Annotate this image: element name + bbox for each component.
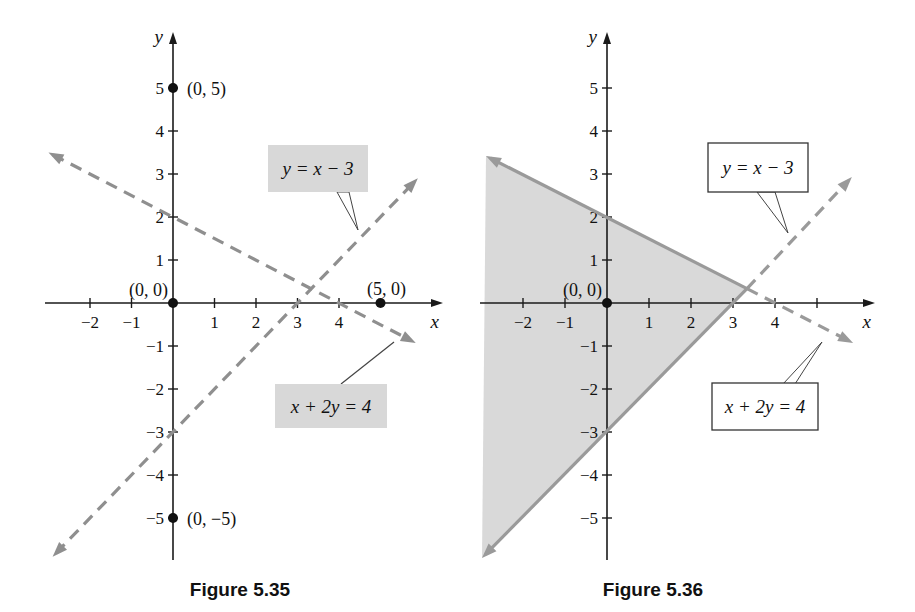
x-tick-label: 4: [771, 313, 780, 332]
y-tick-label: −4: [580, 466, 599, 485]
point-dot: [376, 298, 386, 308]
y-tick-label: 1: [156, 251, 165, 270]
line-y-equals-x-minus-3: [56, 182, 414, 553]
x-tick-label: 4: [335, 313, 344, 332]
x-tick-label: −1: [122, 313, 140, 332]
callout-pointer: [783, 342, 822, 384]
figure-5-36: xy−2−1123454321−1−2−3−4−5(0, 0)y = x − 3…: [480, 26, 875, 560]
y-tick-label: −3: [580, 423, 598, 442]
y-tick-label: 4: [156, 122, 165, 141]
y-tick-label: −1: [580, 337, 598, 356]
x-tick-label: 2: [252, 313, 261, 332]
equation-label: x + 2y = 4: [724, 396, 806, 417]
equation-label: y = x − 3: [280, 158, 353, 179]
line-x-plus-2y-equals-4: [747, 289, 849, 341]
point-label: (0, 0): [129, 280, 168, 301]
y-tick-label: −1: [146, 337, 164, 356]
y-tick-label: −2: [146, 380, 164, 399]
y-tick-label: 1: [590, 251, 599, 270]
y-tick-label: −5: [580, 509, 598, 528]
y-tick-label: −2: [580, 380, 598, 399]
point-dot: [168, 83, 178, 93]
x-tick-label: −2: [514, 313, 532, 332]
figure-5-35: xy−2−1123454321−1−2−3−4−5(0, 5)(0, 0)(5,…: [45, 26, 443, 560]
y-tick-label: 5: [156, 79, 165, 98]
x-axis-label: x: [862, 311, 872, 332]
y-axis-arrow-icon: [603, 32, 611, 44]
page: xy−2−1123454321−1−2−3−4−5(0, 5)(0, 0)(5,…: [0, 0, 915, 612]
y-tick-label: −4: [146, 466, 165, 485]
point-dot: [168, 513, 178, 523]
y-tick-label: −5: [146, 509, 164, 528]
y-tick-label: 3: [156, 165, 165, 184]
callout-pointer: [341, 342, 394, 384]
line-x-plus-2y-equals-4-arrow-icon: [400, 331, 416, 343]
line-x-plus-2y-equals-4-arrow-icon: [49, 153, 65, 165]
point-label: (0, 5): [187, 79, 226, 100]
x-tick-label: −2: [81, 313, 99, 332]
y-axis-arrow-icon: [169, 32, 177, 44]
x-tick-label: 1: [645, 313, 654, 332]
line-x-plus-2y-equals-4-arrow-icon: [837, 331, 853, 343]
x-tick-label: 1: [210, 313, 219, 332]
y-tick-label: −3: [146, 423, 164, 442]
equation-label: x + 2y = 4: [290, 396, 372, 417]
point-label: (0, 0): [563, 280, 602, 301]
x-axis-arrow-icon: [863, 299, 875, 307]
point-label: (5, 0): [367, 279, 406, 300]
x-tick-label: 2: [687, 313, 696, 332]
x-tick-label: 3: [729, 313, 738, 332]
figure-caption-5-35: Figure 5.35: [140, 579, 340, 601]
shaded-region: [482, 156, 747, 558]
point-label: (0, −5): [187, 509, 236, 530]
y-axis-label: y: [587, 26, 598, 47]
x-axis-arrow-icon: [431, 299, 443, 307]
x-axis-label: x: [430, 311, 440, 332]
line-y-equals-x-minus-3-arrow-icon: [838, 177, 852, 192]
y-axis-label: y: [153, 26, 164, 47]
point-dot: [602, 298, 612, 308]
figure-caption-5-36: Figure 5.36: [553, 579, 753, 601]
equation-label: y = x − 3: [720, 157, 793, 178]
x-tick-label: 3: [293, 313, 302, 332]
y-tick-label: 3: [590, 165, 599, 184]
y-tick-label: 4: [590, 122, 599, 141]
callout-pointer: [337, 192, 358, 230]
callout-pointer: [757, 192, 788, 233]
line-y-equals-x-minus-3-arrow-icon: [53, 542, 67, 557]
figures-canvas: xy−2−1123454321−1−2−3−4−5(0, 5)(0, 0)(5,…: [0, 0, 915, 575]
x-tick-label: −1: [556, 313, 574, 332]
point-dot: [168, 298, 178, 308]
y-tick-label: 5: [590, 79, 599, 98]
